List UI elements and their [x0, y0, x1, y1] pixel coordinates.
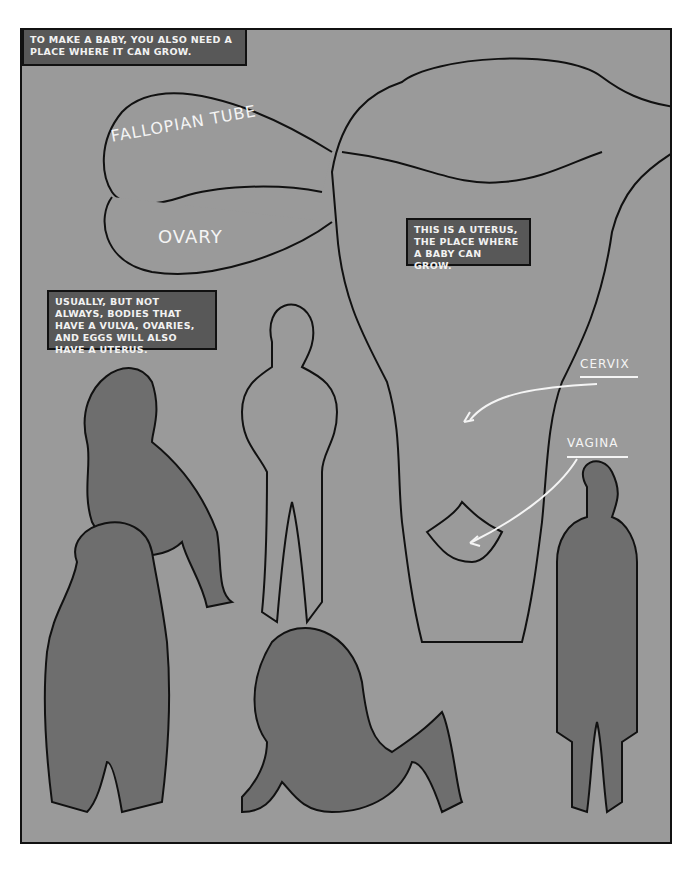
label-cervix: CERVIX [580, 357, 630, 371]
figure-standing-hands-hips [242, 305, 337, 622]
label-vagina: VAGINA [567, 436, 618, 450]
caption-intro: TO MAKE A BABY, YOU ALSO NEED A PLACE WH… [22, 28, 247, 66]
label-ovary: OVARY [158, 226, 223, 247]
caption-bodies: USUALLY, BUT NOT ALWAYS, BODIES THAT HAV… [47, 290, 217, 350]
comic-panel: TO MAKE A BABY, YOU ALSO NEED A PLACE WH… [20, 28, 672, 844]
figure-reclining-afro [242, 628, 462, 812]
figure-large-curly-hair [45, 522, 169, 812]
figure-standing-short-hair [557, 461, 637, 812]
caption-uterus: THIS IS A UTERUS, THE PLACE WHERE A BABY… [406, 218, 531, 266]
